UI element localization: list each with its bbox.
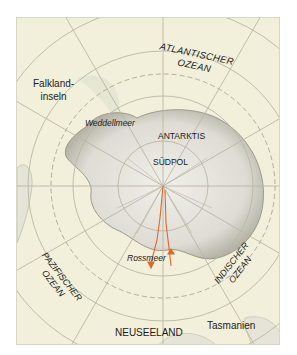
label-south-america: SÜDAMERIKA <box>16 181 18 241</box>
label-antarctica: ANTARKTIS <box>158 132 205 141</box>
south-america-land <box>17 165 32 243</box>
label-falkland-line1: Falkland- <box>33 79 74 89</box>
label-tasmania: Tasmanien <box>207 321 255 331</box>
label-weddell-sea: Weddellmeer <box>85 119 135 128</box>
label-new-zealand: NEUSEELAND <box>115 328 183 338</box>
polar-map: ATLANTISCHER OZEAN Falkland- inseln Wedd… <box>16 17 280 345</box>
label-ross-sea: Rossmeer <box>127 254 166 263</box>
label-falkland-islands: Falkland- inseln <box>33 79 74 102</box>
label-falkland-line2: inseln <box>33 92 74 102</box>
label-south-pole: SÜDPOL <box>153 158 188 167</box>
